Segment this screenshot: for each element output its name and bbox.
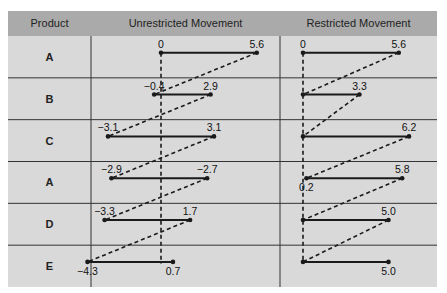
restricted-end-label: 5.0: [381, 205, 396, 217]
restricted-start-point: [301, 92, 306, 97]
restricted-start-point: [301, 50, 306, 55]
unrestricted-start-point: [106, 134, 111, 139]
restricted-end-label: 3.3: [352, 80, 367, 92]
unrestricted-start-label: 0: [158, 38, 164, 50]
column-header: Product: [31, 17, 69, 29]
restricted-end-point: [386, 260, 391, 265]
unrestricted-end-label: 5.6: [249, 38, 264, 50]
unrestricted-start-label: −0.4: [144, 80, 165, 92]
restricted-end-label: 5.8: [395, 163, 410, 175]
row-product-label: A: [46, 176, 54, 188]
unrestricted-end-label: 2.9: [203, 80, 218, 92]
restricted-start-point: [301, 260, 306, 265]
unrestricted-end-label: 0.7: [166, 265, 181, 277]
unrestricted-start-label: −3.1: [98, 121, 119, 133]
row-product-label: D: [46, 218, 54, 230]
unrestricted-start-label: −4.3: [77, 265, 98, 277]
unrestricted-start-label: −3.3: [94, 205, 115, 217]
row-product-label: A: [46, 51, 54, 63]
restricted-start-point: [301, 134, 306, 139]
restricted-start-label: 0.2: [299, 181, 314, 193]
restricted-end-label: 5.6: [391, 38, 406, 50]
unrestricted-start-point: [109, 176, 114, 181]
unrestricted-end-label: 3.1: [207, 121, 222, 133]
movement-chart: ProductUnrestricted MovementRestricted M…: [0, 0, 447, 293]
unrestricted-start-point: [102, 218, 107, 223]
row-product-label: E: [46, 260, 53, 272]
restricted-end-label: 5.0: [381, 265, 396, 277]
column-header: Restricted Movement: [307, 17, 411, 29]
unrestricted-start-point: [152, 92, 157, 97]
restricted-start-point: [304, 176, 309, 181]
restricted-start-point: [301, 218, 306, 223]
unrestricted-end-point: [171, 260, 176, 265]
row-product-label: C: [46, 135, 54, 147]
unrestricted-end-label: 1.7: [183, 205, 198, 217]
restricted-end-label: 6.2: [402, 121, 417, 133]
unrestricted-start-point: [85, 260, 90, 265]
unrestricted-start-label: −2.9: [101, 163, 122, 175]
unrestricted-end-label: −2.7: [197, 163, 218, 175]
unrestricted-start-point: [159, 50, 164, 55]
restricted-start-label: 0: [300, 38, 306, 50]
column-header: Unrestricted Movement: [129, 17, 243, 29]
row-product-label: B: [46, 93, 54, 105]
